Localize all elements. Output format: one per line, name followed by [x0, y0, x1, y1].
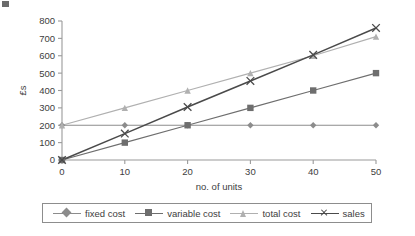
svg-text:30: 30	[245, 166, 256, 177]
legend-label-sales: sales	[343, 208, 365, 219]
legend-item-total-cost[interactable]: total cost	[220, 204, 300, 222]
svg-text:500: 500	[39, 68, 55, 79]
svg-text:600: 600	[39, 50, 55, 61]
diamond-marker-icon	[62, 208, 72, 218]
svg-text:0: 0	[59, 166, 64, 177]
svg-text:10: 10	[120, 166, 131, 177]
svg-text:200: 200	[39, 120, 55, 131]
legend-item-fixed-cost[interactable]: fixed cost	[43, 204, 125, 222]
svg-text:800: 800	[39, 15, 55, 26]
svg-text:300: 300	[39, 102, 55, 113]
break-even-chart: 010020030040050060070080001020304050no. …	[0, 0, 415, 236]
svg-text:100: 100	[39, 137, 55, 148]
svg-text:20: 20	[182, 166, 193, 177]
legend-swatch-fixed-cost	[53, 208, 81, 218]
legend-swatch-sales	[311, 208, 339, 218]
svg-text:no. of units: no. of units	[196, 181, 243, 192]
plot-area: 010020030040050060070080001020304050no. …	[0, 0, 415, 236]
svg-text:£s: £s	[17, 85, 28, 95]
legend-item-variable-cost[interactable]: variable cost	[125, 204, 220, 222]
legend-label-fixed-cost: fixed cost	[85, 208, 125, 219]
svg-text:400: 400	[39, 85, 55, 96]
legend-swatch-variable-cost	[135, 208, 163, 218]
svg-text:40: 40	[308, 166, 319, 177]
legend-label-variable-cost: variable cost	[167, 208, 220, 219]
triangle-marker-icon	[240, 210, 246, 217]
svg-text:0: 0	[50, 154, 55, 165]
chart-legend: fixed cost variable cost total cost sale…	[42, 203, 372, 223]
x-marker-icon	[321, 209, 328, 216]
legend-item-sales[interactable]: sales	[301, 204, 365, 222]
svg-text:50: 50	[371, 166, 382, 177]
legend-label-total-cost: total cost	[262, 208, 300, 219]
svg-text:700: 700	[39, 33, 55, 44]
square-marker-icon	[145, 209, 152, 216]
legend-swatch-total-cost	[230, 208, 258, 218]
